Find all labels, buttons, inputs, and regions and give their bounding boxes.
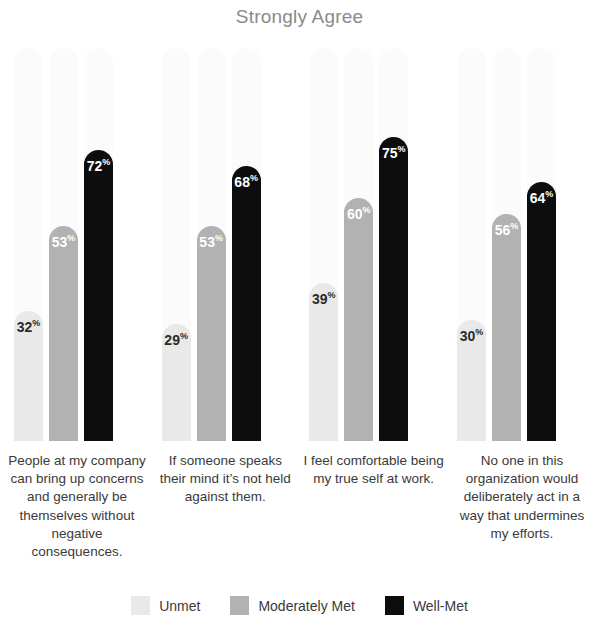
percent-sign: %	[475, 327, 483, 337]
category-labels: People at my company can bring up concer…	[0, 452, 599, 572]
bar-value-label: 29%	[164, 332, 188, 347]
bar-group-3: 39%60%75%	[309, 48, 437, 441]
bar-moderate[interactable]: 53%	[49, 226, 78, 441]
bar-group-2: 29%53%68%	[162, 48, 290, 441]
bar-unmet[interactable]: 32%	[14, 311, 43, 441]
bar-well[interactable]: 75%	[379, 137, 408, 441]
bar-well[interactable]: 64%	[527, 182, 556, 441]
category-label: If someone speaks their mind it’s not he…	[154, 452, 296, 572]
legend-label: Unmet	[159, 598, 200, 614]
bar-track: 68%	[232, 48, 261, 441]
legend-swatch-icon	[385, 596, 404, 615]
category-label: I feel comfortable being my true self at…	[303, 452, 445, 572]
bar-track: 60%	[344, 48, 373, 441]
chart-title: Strongly Agree	[0, 6, 599, 28]
legend-swatch-icon	[230, 596, 249, 615]
category-label: No one in this organization would delibe…	[451, 452, 593, 572]
bar-value-label: 60%	[347, 206, 371, 221]
percent-sign: %	[67, 233, 75, 243]
bar-value-label: 75%	[382, 145, 406, 160]
bar-track: 39%	[309, 48, 338, 441]
bar-unmet[interactable]: 29%	[162, 324, 191, 441]
bar-value-label: 53%	[199, 234, 223, 249]
bar-moderate[interactable]: 60%	[344, 198, 373, 441]
bar-group-1: 32%53%72%	[14, 48, 142, 441]
legend-swatch-icon	[131, 596, 150, 615]
chart-legend: UnmetModerately MetWell-Met	[0, 596, 599, 615]
percent-sign: %	[102, 157, 110, 167]
legend-item[interactable]: Moderately Met	[230, 596, 354, 615]
plot-area: 32%53%72%29%53%68%39%60%75%30%56%64%	[0, 48, 599, 441]
percent-sign: %	[398, 144, 406, 154]
legend-item[interactable]: Well-Met	[385, 596, 468, 615]
percent-sign: %	[215, 233, 223, 243]
percent-sign: %	[545, 189, 553, 199]
bar-track: 75%	[379, 48, 408, 441]
bar-unmet[interactable]: 30%	[457, 320, 486, 441]
bar-track: 30%	[457, 48, 486, 441]
bar-moderate[interactable]: 53%	[197, 226, 226, 441]
percent-sign: %	[363, 205, 371, 215]
percent-sign: %	[32, 318, 40, 328]
percent-sign: %	[250, 173, 258, 183]
bar-value-label: 72%	[87, 158, 111, 173]
bar-track: 53%	[49, 48, 78, 441]
percent-sign: %	[328, 290, 336, 300]
bar-value-label: 53%	[52, 234, 76, 249]
chart-container: Strongly Agree 32%53%72%29%53%68%39%60%7…	[0, 0, 599, 637]
bar-track: 53%	[197, 48, 226, 441]
percent-sign: %	[180, 331, 188, 341]
bar-value-label: 30%	[460, 328, 484, 343]
bar-track: 29%	[162, 48, 191, 441]
bar-track: 32%	[14, 48, 43, 441]
bar-value-label: 32%	[17, 319, 41, 334]
bar-group-4: 30%56%64%	[457, 48, 585, 441]
category-label: People at my company can bring up concer…	[6, 452, 148, 572]
legend-label: Moderately Met	[258, 598, 354, 614]
bar-value-label: 39%	[312, 291, 336, 306]
bar-track: 64%	[527, 48, 556, 441]
bar-value-label: 68%	[234, 174, 258, 189]
bar-unmet[interactable]: 39%	[309, 283, 338, 441]
bar-track: 72%	[84, 48, 113, 441]
bar-value-label: 64%	[530, 190, 554, 205]
bar-well[interactable]: 68%	[232, 166, 261, 441]
bar-track: 56%	[492, 48, 521, 441]
bar-well[interactable]: 72%	[84, 150, 113, 441]
bar-moderate[interactable]: 56%	[492, 214, 521, 441]
percent-sign: %	[510, 221, 518, 231]
legend-label: Well-Met	[413, 598, 468, 614]
legend-item[interactable]: Unmet	[131, 596, 200, 615]
bar-value-label: 56%	[495, 222, 519, 237]
